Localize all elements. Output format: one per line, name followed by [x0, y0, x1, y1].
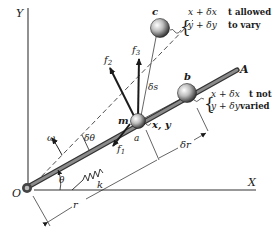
- r-dimension-line-left: [48, 207, 72, 222]
- point-c-label: c: [152, 6, 158, 17]
- c-annot-line1-note: t allowed: [228, 7, 271, 17]
- point-b-label: b: [184, 71, 191, 82]
- b-annot-line2-note: varied: [239, 101, 270, 111]
- b-leader-icon: [194, 98, 204, 101]
- mass-c-ball: [151, 19, 170, 38]
- delta-r-dim-left: [159, 148, 178, 158]
- delta-r-dim-right: [194, 133, 206, 140]
- x-axis-label: X: [247, 176, 257, 189]
- rod: [26, 70, 237, 188]
- mass-b-ball: [178, 84, 197, 103]
- origin-label: O: [12, 187, 21, 200]
- delta-s-label: δs: [148, 82, 158, 92]
- delta-theta-label: δθ: [84, 133, 95, 143]
- pivot-icon: [22, 183, 32, 193]
- spring-label: k: [97, 179, 103, 190]
- c-annot-line2-note: to vary: [228, 20, 261, 30]
- b-annot-line1-note: t not: [249, 89, 272, 99]
- r-extension-line: [33, 196, 50, 226]
- force-f3-arrow: [138, 59, 139, 118]
- force-f2-label: f2: [103, 54, 113, 67]
- theta-label: θ: [59, 175, 65, 185]
- a-extension-line: [146, 130, 159, 160]
- r-label: r: [73, 199, 79, 210]
- c-annot-line1-expr: x + δx: [188, 7, 217, 17]
- delta-r-label: δr: [180, 139, 192, 150]
- dynamics-diagram: Y X A O θ ω δθ k r δr f2 f3 f: [0, 0, 274, 232]
- y-axis-label: Y: [16, 7, 25, 20]
- position-xy-label: x, y: [151, 119, 172, 131]
- rotated-rod-dashed-line: [36, 20, 193, 182]
- mass-label: m: [118, 115, 129, 126]
- omega-label: ω: [47, 132, 55, 143]
- delta-s-line: [141, 32, 157, 116]
- force-f3-label: f3: [131, 44, 141, 57]
- c-annot-line2-expr: y + δy: [187, 20, 218, 30]
- rod-end-label: A: [239, 63, 249, 76]
- force-f2-arrow: [110, 68, 135, 118]
- point-a-label: a: [134, 133, 139, 143]
- force-f1-label: f1: [116, 143, 125, 156]
- mass-a-ball: [131, 114, 146, 129]
- b-annot-line1-expr: x + δx: [211, 89, 240, 99]
- b-annot-line2-expr: y + δy: [210, 101, 241, 111]
